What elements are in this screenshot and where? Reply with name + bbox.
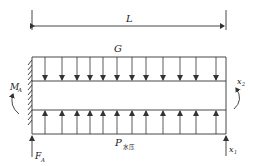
moment-arrow-ma	[12, 94, 19, 114]
top-load-box	[32, 57, 226, 134]
force-label-fa: F A	[34, 151, 45, 163]
down-arrows	[45, 57, 216, 80]
force-label-x1-subscript: 1	[234, 149, 237, 155]
load-label-g: G	[114, 43, 122, 54]
moment-label-x2: x 2	[237, 77, 245, 87]
moment-label-ma: M A	[9, 82, 22, 93]
moment-label-ma-subscript: A	[17, 87, 22, 93]
force-label-fa-subscript: A	[40, 157, 45, 163]
up-arrows	[45, 111, 216, 134]
beam-diagram: L G P 水压	[0, 0, 253, 166]
force-label-x1: x 1	[229, 145, 237, 155]
moment-label-x2-subscript: 2	[241, 81, 245, 87]
moment-arrow-x2	[234, 88, 240, 109]
dimension-label: L	[125, 13, 133, 24]
fixed-wall	[28, 57, 32, 134]
load-label-p: P 水压	[114, 137, 135, 151]
load-label-p-subscript: 水压	[123, 143, 135, 151]
svg-text:P: P	[114, 137, 122, 148]
bottom-load-box	[32, 110, 226, 134]
